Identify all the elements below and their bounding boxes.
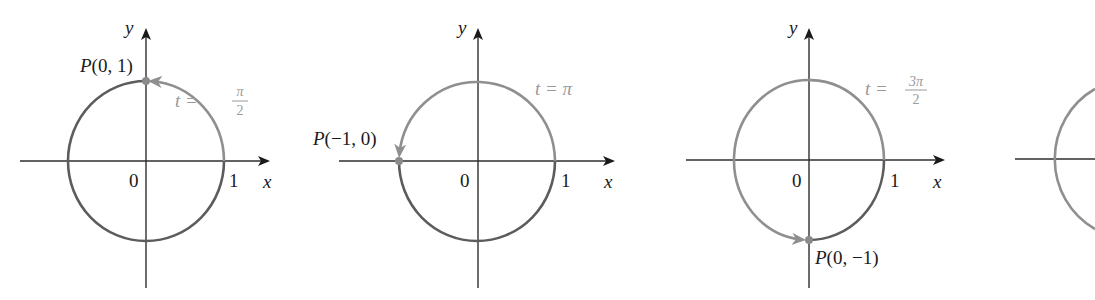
point-label: P(0, −1): [814, 247, 878, 269]
origin-label: 0: [129, 170, 139, 191]
x-axis-label: x: [603, 171, 613, 192]
t-fraction-num: 3π: [908, 74, 924, 89]
panel-t-pi-over-2: P(0, 1) t = π 2 0 1 x y: [20, 17, 272, 288]
one-label: 1: [229, 170, 239, 191]
point-label: P(0, 1): [79, 55, 133, 77]
one-label: 1: [561, 170, 571, 191]
one-label: 1: [890, 170, 900, 191]
origin-label: 0: [792, 170, 802, 191]
panel-t-3pi-over-2: P(0, −1) t = 3π 2 0 1 x y: [686, 17, 943, 288]
point-marker: [395, 157, 403, 165]
arc-remaining: [809, 160, 884, 240]
t-fraction-den: 2: [237, 103, 244, 118]
x-axis-label: x: [262, 171, 272, 192]
y-axis-label: y: [787, 17, 798, 38]
t-fraction-den: 2: [913, 92, 920, 107]
point-label: P(−1, 0): [312, 128, 376, 150]
t-label: t =: [865, 78, 888, 99]
arc-traversed: [399, 82, 555, 161]
x-axis-label: x: [932, 171, 942, 192]
unit-circle-figure: P(0, 1) t = π 2 0 1 x y P(−1, 0) t = π 0…: [0, 0, 1095, 300]
point-marker: [142, 77, 150, 85]
t-fraction-num: π: [236, 84, 244, 99]
point-marker: [805, 236, 813, 244]
t-label: t = π: [535, 78, 573, 99]
arc-remaining: [399, 161, 555, 241]
t-label: t =: [175, 90, 198, 111]
origin-label: 0: [460, 170, 470, 191]
panel-t-pi: P(−1, 0) t = π 0 1 x y: [312, 17, 613, 288]
y-axis-label: y: [123, 17, 134, 38]
panel-partial-fourth: [1015, 89, 1095, 229]
y-axis-label: y: [456, 17, 467, 38]
